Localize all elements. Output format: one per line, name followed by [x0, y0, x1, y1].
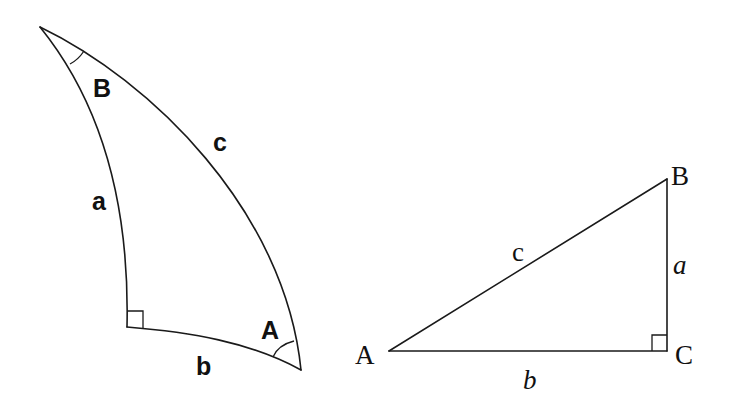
planar-vertex-a-label: A [355, 340, 375, 370]
planar-triangle: A B C c a b [355, 161, 693, 395]
spherical-triangle: B A c a b [40, 27, 301, 380]
spherical-angle-b-arc [70, 51, 84, 64]
planar-right-angle-marker [652, 335, 667, 351]
spherical-side-c-label: c [213, 128, 227, 156]
spherical-vertex-a-label: A [261, 316, 279, 344]
planar-vertex-b-label: B [671, 161, 689, 191]
spherical-right-angle-marker [128, 311, 144, 328]
spherical-side-a-label: a [92, 187, 107, 215]
planar-side-a-label: a [673, 250, 687, 280]
spherical-side-b-label: b [196, 352, 211, 380]
diagram-canvas: B A c a b A B C c a b [0, 0, 730, 409]
spherical-vertex-b-label: B [93, 74, 111, 102]
triangles-figure: B A c a b A B C c a b [0, 0, 730, 409]
planar-vertex-c-label: C [675, 340, 693, 370]
planar-side-b-label: b [523, 365, 537, 395]
planar-side-c-label: c [512, 237, 524, 267]
planar-side-c [389, 179, 667, 351]
